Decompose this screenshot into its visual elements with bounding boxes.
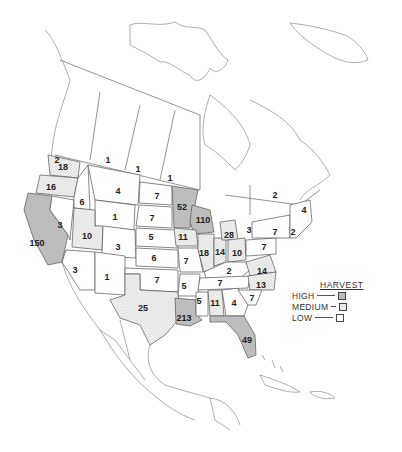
region-value-label: 3 <box>115 242 120 252</box>
region-value-label: 7 <box>272 227 277 237</box>
region-value-label: 7 <box>249 293 254 303</box>
region-value-label: 2 <box>290 227 295 237</box>
region-value-label: 16 <box>46 182 56 192</box>
cuba <box>260 375 300 392</box>
region-value-label: 7 <box>217 278 222 288</box>
region-value-label: 7 <box>154 275 159 285</box>
region-value-label: 4 <box>301 205 306 215</box>
harvest-map: 2111241816150364110331775672552110117521… <box>0 0 402 452</box>
region-value-label: 5 <box>196 296 201 306</box>
region-value-label: 18 <box>58 162 68 172</box>
legend-leader-line <box>315 317 333 318</box>
region-value-label: 1 <box>104 272 109 282</box>
greenland <box>290 23 368 63</box>
region-value-label: 52 <box>177 202 187 212</box>
arctic-islands <box>130 22 228 80</box>
region-value-label: 6 <box>151 253 156 263</box>
region-value-label: 49 <box>242 335 252 345</box>
low-harvest-swatch-icon <box>336 314 344 322</box>
region-value-label: 7 <box>149 213 154 223</box>
region-value-label: 18 <box>199 248 209 258</box>
region-value-label: 4 <box>115 186 120 196</box>
region-value-label: 11 <box>210 298 220 308</box>
region-value-label: 25 <box>138 303 148 313</box>
legend-item-medium: MEDIUM <box>292 301 392 312</box>
region-value-label: 13 <box>256 280 266 290</box>
region-value-label: 1 <box>105 155 110 165</box>
pacific-coast-north <box>45 30 70 162</box>
medium-harvest-swatch-icon <box>339 303 347 311</box>
region-value-label: 4 <box>231 298 236 308</box>
region-value-label: 2 <box>226 266 231 276</box>
legend-label: LOW <box>292 313 312 323</box>
legend-item-high: HIGH <box>292 290 392 301</box>
legend-label: HIGH <box>292 291 314 301</box>
region-value-label: 1 <box>167 173 172 183</box>
region-value-label: 213 <box>176 313 191 323</box>
region-value-label: 11 <box>178 232 188 242</box>
region-value-label: 150 <box>29 238 44 248</box>
legend-label: MEDIUM <box>292 302 328 312</box>
labrador-coast <box>250 100 330 200</box>
region-value-label: 7 <box>154 191 159 201</box>
legend: HARVEST HIGH MEDIUM LOW <box>292 280 392 323</box>
region-value-label: 3 <box>57 220 62 230</box>
region-value-label: 7 <box>183 256 188 266</box>
high-harvest-swatch-icon <box>338 292 346 300</box>
region-value-label: 14 <box>215 247 225 257</box>
legend-item-low: LOW <box>292 312 392 323</box>
region-value-label: 6 <box>79 197 84 207</box>
legend-leader-line <box>331 306 336 307</box>
bahamas <box>262 355 283 372</box>
mexico-gulf-coast <box>148 345 240 425</box>
legend-leader-line <box>317 295 335 296</box>
legend-title: HARVEST <box>320 280 392 290</box>
region-value-label: 1 <box>112 212 117 222</box>
region-value-label: 5 <box>148 232 153 242</box>
region-value-label: 3 <box>246 225 251 235</box>
hispaniola <box>310 391 335 398</box>
region-value-label: 3 <box>72 265 77 275</box>
region-value-label: 110 <box>196 215 211 225</box>
region-value-label: 2 <box>272 190 277 200</box>
region-value-label: 10 <box>82 231 92 241</box>
region-value-label: 10 <box>232 248 242 258</box>
region-value-label: 7 <box>261 242 266 252</box>
region-value-label: 28 <box>224 230 234 240</box>
region-value-label: 1 <box>135 164 140 174</box>
region-value-label: 14 <box>257 266 267 276</box>
region-value-label: 5 <box>181 281 186 291</box>
hudson-bay <box>203 95 250 170</box>
